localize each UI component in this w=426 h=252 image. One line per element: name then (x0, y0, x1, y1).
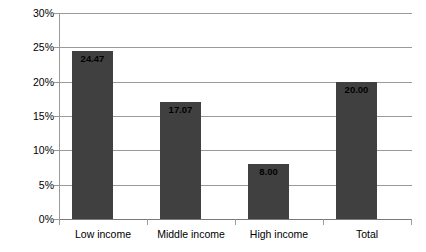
bar: 20.00 (336, 82, 377, 219)
x-axis-tick-mark (235, 219, 236, 225)
x-axis-tick-mark (147, 219, 148, 225)
x-axis-labels: Low income Middle income High income Tot… (59, 229, 412, 247)
bar: 24.47 (72, 51, 113, 219)
x-axis-category-label: Middle income (147, 229, 235, 241)
bar-value-label: 20.00 (336, 85, 377, 95)
bar-value-label: 24.47 (72, 54, 113, 64)
x-axis-category-label: Total (323, 229, 411, 241)
x-axis-category-label: Low income (59, 229, 147, 241)
bar-chart: 30% 25% 20% 15% 10% 5% 0% 24.47 17.07 (0, 0, 426, 252)
x-axis-tick-mark (323, 219, 324, 225)
x-axis-tick-marks (59, 219, 412, 226)
y-axis-tick-marks (0, 13, 60, 219)
x-axis-category-label: High income (235, 229, 323, 241)
x-axis-tick-mark (411, 219, 412, 225)
bar: 8.00 (248, 164, 289, 219)
x-axis-tick-mark (59, 219, 60, 225)
bar-value-label: 8.00 (248, 167, 289, 177)
plot-area: 24.47 17.07 8.00 20.00 (59, 13, 412, 219)
bar-value-label: 17.07 (160, 105, 201, 115)
bar: 17.07 (160, 102, 201, 219)
gridline (59, 13, 412, 14)
gridline (59, 47, 412, 48)
